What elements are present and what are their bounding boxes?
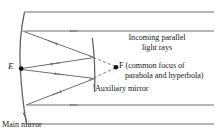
virtual-focus-dashed-group bbox=[89, 56, 115, 81]
label-focus-line1: (common focus of bbox=[124, 61, 185, 70]
reflected-rays-group bbox=[23, 31, 95, 105]
optics-diagram-figure: E Incoming parallel light rays F (common… bbox=[0, 0, 218, 137]
label-focus-line2: parabola and hyperbola) bbox=[119, 71, 217, 81]
point-markers-group bbox=[19, 65, 118, 71]
reflected-ray-upper bbox=[23, 31, 95, 58]
label-incoming-parallel-light-rays: Incoming parallel light rays bbox=[111, 33, 203, 52]
label-focus-description: F (common focus of parabola and hyperbol… bbox=[119, 61, 217, 80]
label-incoming-line1: Incoming parallel bbox=[128, 33, 185, 42]
secondary-reflected-rays-group bbox=[22, 58, 95, 79]
reflected-ray-lower-arrow bbox=[52, 92, 59, 95]
secondary-ray-from-top-arrow bbox=[53, 63, 60, 64]
label-auxiliary-mirror: Auxiliary mirror bbox=[95, 84, 149, 94]
reflected-ray-upper-arrow bbox=[48, 41, 55, 44]
focus-point-dot bbox=[114, 65, 119, 70]
label-point-e: E bbox=[8, 62, 13, 72]
label-incoming-line2: light rays bbox=[142, 43, 172, 52]
reflected-ray-lower bbox=[26, 79, 95, 106]
eye-point-dot bbox=[19, 66, 24, 71]
secondary-ray-from-bottom-arrow bbox=[57, 74, 64, 75]
label-main-mirror: Main mirror bbox=[2, 120, 42, 130]
